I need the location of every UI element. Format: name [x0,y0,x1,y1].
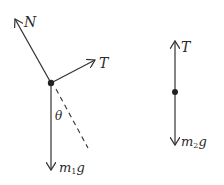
tension-force-label-right: T [181,39,192,55]
left-body-dot [48,80,54,86]
weight-force-label-left: m1g [59,160,85,176]
left-body-diagram: N T θ m1g [15,14,110,176]
weight-force-label-right: m2g [181,134,207,150]
right-body-diagram: T m2g [172,39,207,150]
angle-label: θ [55,109,63,123]
normal-force-label: N [23,14,37,30]
right-body-dot [172,89,178,95]
tension-force-arrow-left [51,60,95,83]
tension-force-label-left: T [99,55,110,71]
free-body-diagram: N T θ m1g T m2g [0,0,224,185]
